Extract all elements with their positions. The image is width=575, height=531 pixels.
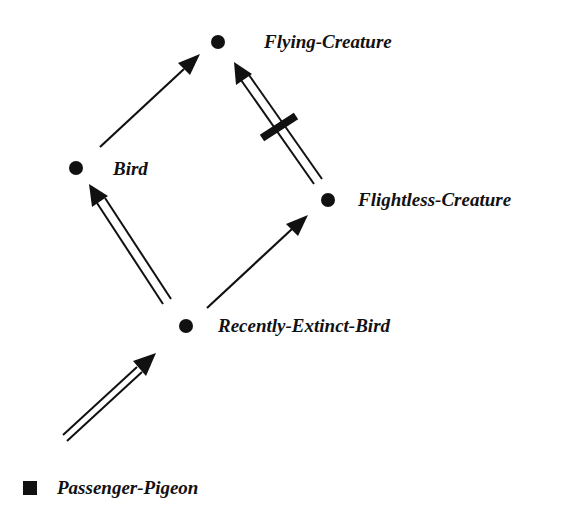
label-flying-creature: Flying-Creature (264, 32, 392, 51)
label-passenger-pigeon: Passenger-Pigeon (57, 478, 198, 497)
edge-passenger-pigeon-to-recently-extinct-bird (63, 353, 156, 441)
node-flying-creature-dot (211, 35, 225, 49)
node-passenger-pigeon-square (23, 481, 37, 495)
node-recently-extinct-bird-dot (179, 319, 193, 333)
edge-flightless-creature-to-flying-creature (234, 62, 322, 184)
diagram-graphics (0, 0, 575, 531)
arrowhead-icon (133, 353, 156, 376)
node-flightless-creature-dot (321, 193, 335, 207)
edge-recently-extinct-bird-to-flightless-creature (207, 215, 308, 308)
label-flightless-creature: Flightless-Creature (358, 190, 511, 209)
edge-recently-extinct-bird-to-bird (89, 184, 171, 304)
label-recently-extinct-bird: Recently-Extinct-Bird (218, 316, 390, 335)
label-bird: Bird (113, 159, 148, 178)
inheritance-diagram: Flying-Creature Bird Flightless-Creature… (0, 0, 575, 531)
node-bird-dot (69, 161, 83, 175)
edge-bird-to-flying-creature (100, 54, 200, 147)
